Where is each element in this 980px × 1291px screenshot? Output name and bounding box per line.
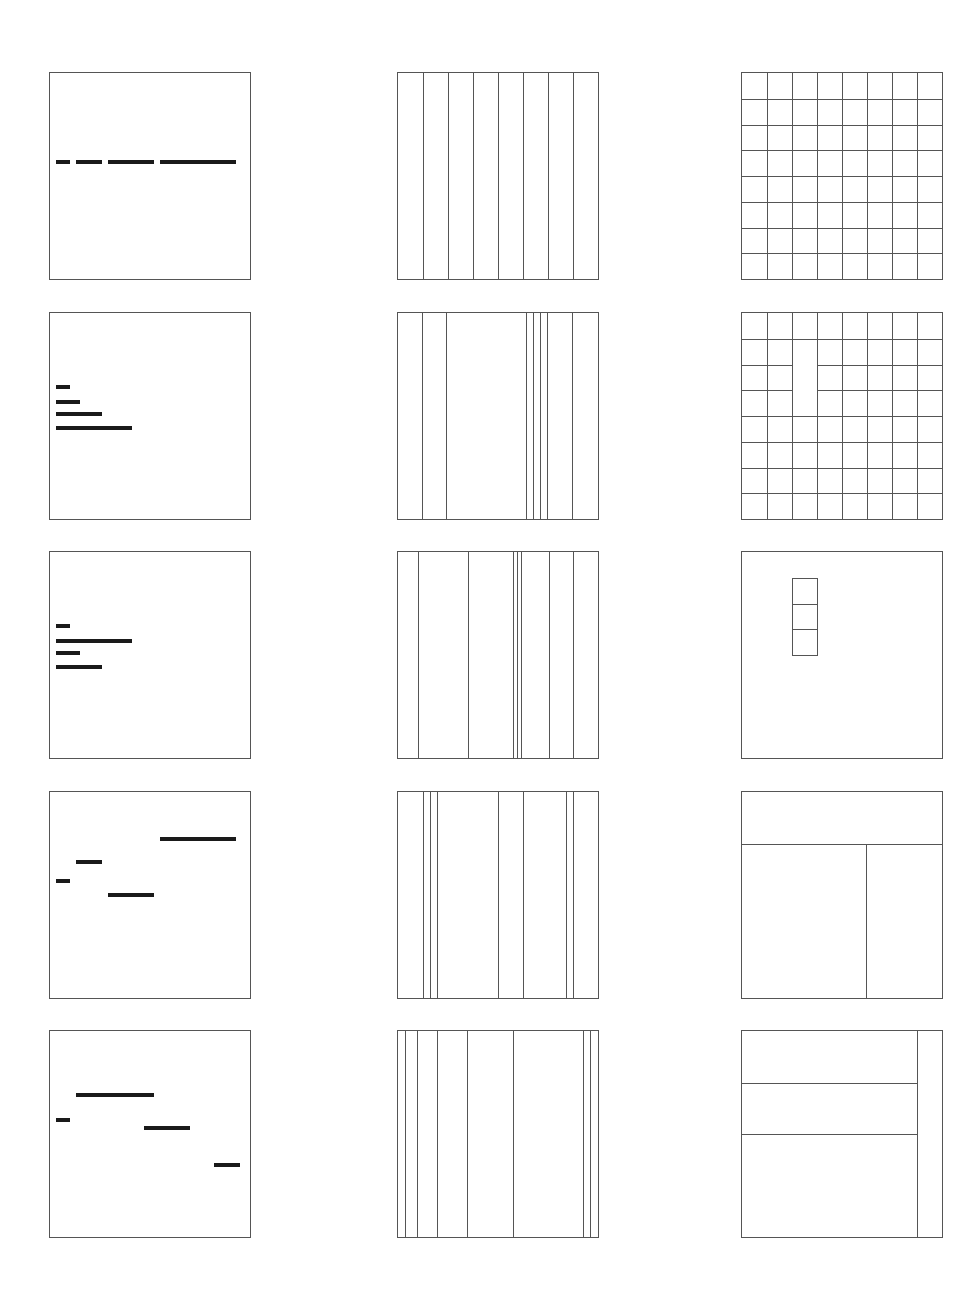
grid-row-segment <box>867 253 892 254</box>
bar-4 <box>56 426 132 430</box>
grid-row-segment <box>917 228 942 229</box>
panel-r3c1 <box>49 551 251 759</box>
grid-row-segment <box>767 493 792 494</box>
grid-row-segment <box>792 468 817 469</box>
bar-3 <box>144 1126 190 1130</box>
bar-3 <box>56 412 102 416</box>
grid-row-segment <box>917 416 942 417</box>
grid-row-segment <box>792 125 817 126</box>
bar-4 <box>214 1163 240 1167</box>
grid-row-segment <box>892 202 917 203</box>
bar-2 <box>76 160 102 164</box>
grid-row-segment <box>842 390 867 391</box>
grid-row-segment <box>867 125 892 126</box>
grid-row-segment <box>742 493 767 494</box>
grid-row-segment <box>892 99 917 100</box>
grid-row-segment <box>817 176 842 177</box>
grid-row-segment <box>867 442 892 443</box>
grid-row-segment <box>867 228 892 229</box>
grid-row-segment <box>817 390 842 391</box>
grid-row-segment <box>892 442 917 443</box>
grid-row-segment <box>867 365 892 366</box>
column-divider-5 <box>513 1031 514 1237</box>
grid-row-segment <box>817 468 842 469</box>
column-divider-1 <box>418 552 419 758</box>
grid-row-segment <box>767 228 792 229</box>
column-divider-2 <box>468 552 469 758</box>
column-divider-6 <box>548 73 549 279</box>
grid-row-segment <box>842 253 867 254</box>
grid-row-segment <box>867 390 892 391</box>
grid-row-segment <box>817 442 842 443</box>
grid-row-segment <box>817 202 842 203</box>
column-divider-5 <box>523 792 524 998</box>
cell-2 <box>792 604 818 631</box>
column-divider-6 <box>549 552 550 758</box>
grid-row-segment <box>917 339 942 340</box>
grid-row-segment <box>767 390 792 391</box>
grid-row-segment <box>792 176 817 177</box>
grid-row-segment <box>892 468 917 469</box>
column-divider-7 <box>573 792 574 998</box>
column-divider-4 <box>498 792 499 998</box>
grid-row-segment <box>817 99 842 100</box>
grid-row-segment <box>842 442 867 443</box>
grid-row-segment <box>917 176 942 177</box>
column-divider-1 <box>423 792 424 998</box>
grid-row-segment <box>767 253 792 254</box>
grid-row-segment <box>867 339 892 340</box>
grid-row-segment <box>917 442 942 443</box>
grid-row-segment <box>742 339 767 340</box>
grid-row-segment <box>792 253 817 254</box>
panel-r4c1 <box>49 791 251 999</box>
panel-r2c2 <box>397 312 599 520</box>
grid-row-segment <box>742 468 767 469</box>
grid-row-segment <box>742 416 767 417</box>
grid-row-segment <box>867 493 892 494</box>
grid-row-segment <box>892 228 917 229</box>
grid-row-segment <box>742 125 767 126</box>
grid-row-segment <box>867 202 892 203</box>
partition-hline-1 <box>742 1083 917 1084</box>
grid-row-segment <box>742 176 767 177</box>
grid-row-segment <box>767 150 792 151</box>
grid-row-segment <box>842 468 867 469</box>
column-divider-5 <box>521 552 522 758</box>
grid-row-segment <box>817 365 842 366</box>
grid-row-segment <box>742 99 767 100</box>
grid-row-segment <box>767 365 792 366</box>
bar-4 <box>160 160 236 164</box>
grid-row-segment <box>792 339 817 340</box>
grid-row-segment <box>792 150 817 151</box>
panel-r5c2 <box>397 1030 599 1238</box>
grid-row-segment <box>742 150 767 151</box>
grid-row-segment <box>842 365 867 366</box>
bar-2 <box>56 639 132 643</box>
grid-row-segment <box>842 339 867 340</box>
bar-2 <box>76 860 102 864</box>
partition-vline-1 <box>917 1031 918 1237</box>
bar-1 <box>56 160 70 164</box>
grid-row-segment <box>842 150 867 151</box>
bar-1 <box>160 837 236 841</box>
column-divider-2 <box>446 313 447 519</box>
grid-row-segment <box>892 365 917 366</box>
bar-2 <box>56 400 80 404</box>
partition-hline-2 <box>742 1134 917 1135</box>
panel-r1c2 <box>397 72 599 280</box>
grid-row-segment <box>892 176 917 177</box>
grid-row-segment <box>867 176 892 177</box>
panel-r5c3 <box>741 1030 943 1238</box>
grid-row-segment <box>817 493 842 494</box>
column-divider-4 <box>533 313 534 519</box>
column-divider-2 <box>417 1031 418 1237</box>
grid-row-segment <box>792 228 817 229</box>
grid-row-segment <box>817 253 842 254</box>
grid-row-segment <box>917 253 942 254</box>
grid-row-segment <box>817 228 842 229</box>
grid-row-segment <box>892 150 917 151</box>
grid-row-segment <box>917 493 942 494</box>
bar-2 <box>56 1118 70 1122</box>
grid-row-segment <box>892 253 917 254</box>
column-divider-6 <box>566 792 567 998</box>
